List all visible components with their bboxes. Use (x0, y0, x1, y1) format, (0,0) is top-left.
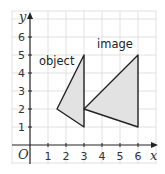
y-tick-1: 1 (18, 121, 25, 134)
x-tick-1: 1 (45, 150, 52, 163)
coordinate-diagram: 1 2 3 4 5 6 1 2 3 4 5 6 y x O object ima… (0, 0, 165, 174)
x-tick-4: 4 (99, 150, 106, 163)
y-tick-5: 5 (18, 49, 25, 62)
x-tick-3: 3 (81, 150, 88, 163)
y-tick-6: 6 (18, 31, 25, 44)
object-label: object (39, 54, 75, 68)
y-axis-arrow-icon (27, 12, 33, 19)
x-tick-5: 5 (117, 150, 124, 163)
y-tick-4: 4 (18, 67, 25, 80)
y-tick-2: 2 (18, 103, 25, 116)
x-tick-2: 2 (63, 150, 70, 163)
x-tick-6: 6 (135, 150, 142, 163)
x-axis-label: x (150, 148, 158, 163)
y-axis-label: y (18, 9, 27, 24)
image-label: image (97, 37, 133, 51)
origin-label: O (18, 147, 29, 162)
y-tick-3: 3 (18, 85, 25, 98)
